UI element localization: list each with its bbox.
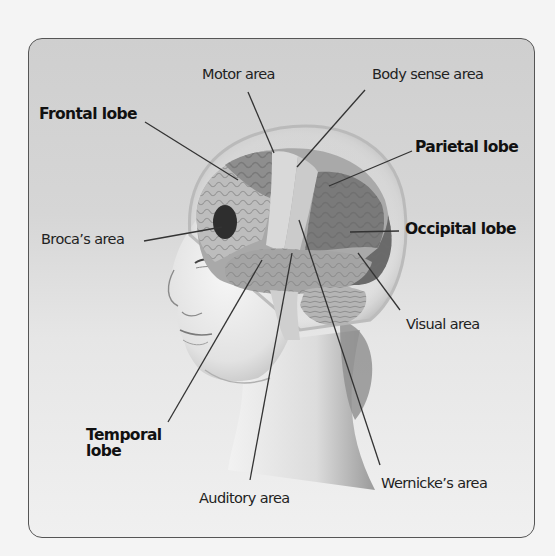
label-motor-area: Motor area: [202, 67, 275, 82]
label-parietal-lobe: Parietal lobe: [415, 139, 518, 155]
label-temporal-lobe-line2: lobe: [86, 443, 162, 459]
label-auditory-area: Auditory area: [199, 491, 290, 506]
brocas-area-region: [213, 205, 237, 239]
head-brain-illustration: [0, 0, 555, 556]
label-body-sense-area: Body sense area: [372, 67, 483, 82]
label-temporal-lobe: Temporal lobe: [86, 427, 162, 460]
label-brocas-area: Broca’s area: [41, 232, 124, 247]
label-occipital-lobe: Occipital lobe: [405, 221, 516, 237]
label-temporal-lobe-line1: Temporal: [86, 427, 162, 443]
label-frontal-lobe: Frontal lobe: [39, 106, 137, 122]
label-visual-area: Visual area: [406, 317, 480, 332]
label-wernickes-area: Wernicke’s area: [381, 476, 487, 491]
